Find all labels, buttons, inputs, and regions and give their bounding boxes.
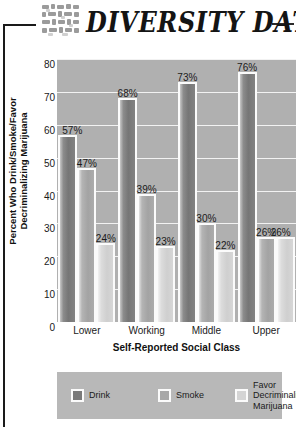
bar-value-label: 22%	[215, 240, 235, 251]
bar: 57%	[58, 135, 77, 322]
x-axis-ticks: LowerWorkingMiddleUpper	[57, 325, 296, 339]
chart-legend: DrinkSmokeFavor Decriminalizing Marijuan…	[57, 372, 282, 419]
bar-value-label: 76%	[237, 62, 257, 73]
bar: 26%	[276, 237, 295, 322]
bar-value-label: 68%	[118, 88, 138, 99]
y-tick-label: 20	[31, 256, 55, 268]
bar: 39%	[137, 194, 156, 322]
legend-item: Favor Decriminalizing Marijuana	[235, 372, 296, 419]
bar-value-label: 57%	[62, 125, 82, 136]
legend-item: Smoke	[158, 372, 204, 419]
bar: 24%	[96, 243, 115, 322]
bar-value-label: 73%	[177, 72, 197, 83]
bar-value-label: 39%	[137, 184, 157, 195]
legend-label: Smoke	[176, 390, 204, 401]
diversity-data-figure: DIVERSITY DATA 80706050403020100 Percent…	[0, 0, 296, 439]
y-tick-label: 70	[31, 92, 55, 104]
y-tick-label: 60	[31, 125, 55, 137]
legend-swatch	[158, 389, 171, 402]
figure-header: DIVERSITY DATA	[0, 0, 296, 44]
bar-value-label: 26%	[271, 227, 291, 238]
y-axis-title: Percent Who Drink/Smoke/Favor Decriminal…	[7, 71, 29, 271]
y-axis-ticks: 80706050403020100	[31, 52, 55, 329]
legend-swatch	[235, 389, 248, 402]
x-tick-label: Lower	[52, 325, 121, 336]
bar-value-label: 23%	[156, 236, 176, 247]
bar: 47%	[77, 168, 96, 323]
bar: 76%	[238, 72, 257, 322]
bar-value-label: 30%	[196, 213, 216, 224]
y-tick-label: 80	[31, 59, 55, 71]
bar-value-label: 24%	[96, 233, 116, 244]
bar: 68%	[118, 98, 137, 322]
bar-group: 57%47%24%	[58, 59, 115, 322]
plot-area: 57%47%24%68%39%23%73%30%22%76%26%26%	[57, 59, 296, 322]
y-tick-label: 10	[31, 289, 55, 301]
bar-value-label: 47%	[77, 158, 97, 169]
x-tick-label: Working	[112, 325, 181, 336]
legend-label: Drink	[89, 390, 110, 401]
y-tick-label: 50	[31, 158, 55, 170]
page-title: DIVERSITY DATA	[86, 3, 272, 43]
x-axis-title: Self-Reported Social Class	[57, 342, 296, 353]
legend-swatch	[71, 389, 84, 402]
legend-item: Drink	[71, 372, 110, 419]
mosaic-blocks-logo	[40, 2, 82, 40]
bar-groups: 57%47%24%68%39%23%73%30%22%76%26%26%	[57, 59, 296, 322]
bar-group: 73%30%22%	[178, 59, 235, 322]
bar: 22%	[216, 250, 235, 322]
header-rule-left	[3, 24, 36, 26]
bar: 30%	[197, 223, 216, 322]
bar: 73%	[178, 82, 197, 322]
bar-group: 76%26%26%	[238, 59, 295, 322]
y-tick-label: 40	[31, 191, 55, 203]
bar: 26%	[257, 237, 276, 322]
x-tick-label: Upper	[232, 325, 296, 336]
figure-left-border	[3, 24, 5, 427]
x-tick-label: Middle	[172, 325, 241, 336]
bar: 23%	[156, 246, 175, 322]
bar-group: 68%39%23%	[118, 59, 175, 322]
legend-label: Favor Decriminalizing Marijuana	[253, 380, 296, 412]
y-tick-label: 30	[31, 223, 55, 235]
